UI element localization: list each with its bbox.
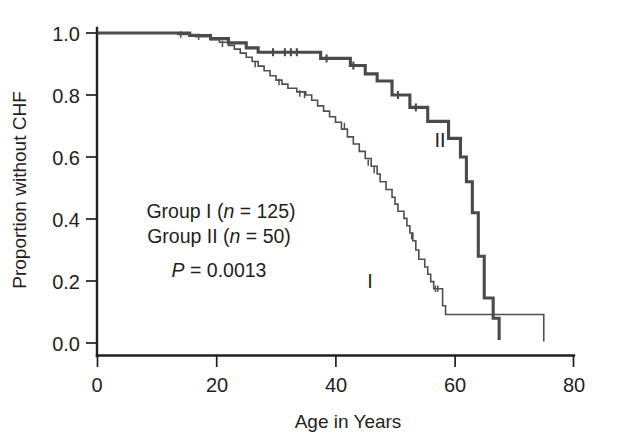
y-axis-title: Proportion without CHF [9,91,30,288]
x-tick-label-20: 20 [206,374,228,396]
group-1-legend-text: Group I (n = 125) [146,200,295,222]
y-tick-label-0-4: 0.4 [52,209,80,231]
p-value-text: P = 0.0013 [172,259,267,281]
kaplan-meier-chart: 1.0 0.8 0.6 0.4 0.2 0.0 0 20 40 60 80 Ag… [0,0,628,441]
series-label-one: I [367,270,373,292]
x-tick-label-0: 0 [91,374,102,396]
series-label-two: II [434,129,445,151]
x-tick-label-40: 40 [325,374,347,396]
y-tick-label-0-2: 0.2 [52,271,80,293]
chart-svg: 1.0 0.8 0.6 0.4 0.2 0.0 0 20 40 60 80 Ag… [0,0,628,441]
y-tick-label-0-6: 0.6 [52,147,80,169]
y-tick-label-0-8: 0.8 [52,85,80,107]
x-axis-title: Age in Years [295,411,402,432]
group-2-legend-text: Group II (n = 50) [147,225,291,247]
x-tick-label-60: 60 [444,374,466,396]
y-tick-label-0-0: 0.0 [52,333,80,355]
x-tick-label-80: 80 [563,374,585,396]
y-tick-label-1-0: 1.0 [52,23,80,45]
